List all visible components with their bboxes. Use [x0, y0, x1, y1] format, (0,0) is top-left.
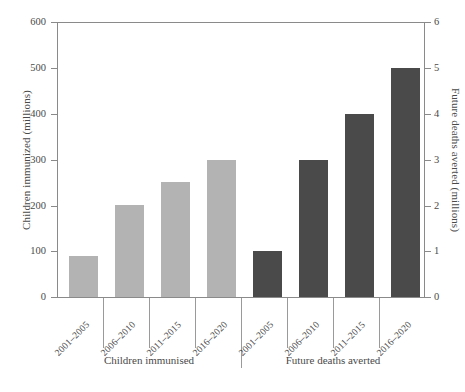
category-separator-1 — [103, 298, 104, 348]
y-right-label-6: 6 — [434, 17, 439, 28]
y-right-label-2: 2 — [434, 201, 439, 212]
bar-chart-figure: Children immunized (millions) Future dea… — [0, 0, 465, 392]
bar-deaths-2016-2020 — [391, 68, 420, 297]
bar-children-2001-2005 — [69, 256, 98, 297]
y-right-label-0: 0 — [434, 292, 439, 303]
x-label-deaths-2011-2015: 2011–2015 — [329, 320, 367, 358]
category-separator-6 — [379, 298, 380, 348]
category-separator-5 — [333, 298, 334, 348]
y-right-label-5: 5 — [434, 63, 439, 74]
y-left-label-400: 400 — [30, 109, 46, 120]
group-caption-future-deaths-averted: Future deaths averted — [241, 354, 425, 366]
x-label-children-2011-2015: 2011–2015 — [145, 320, 183, 358]
x-label-deaths-2016-2020: 2016–2020 — [375, 319, 414, 358]
x-label-deaths-2006-2010: 2006–2010 — [283, 319, 322, 358]
y-right-tick-2 — [425, 206, 431, 207]
y-left-label-100: 100 — [30, 246, 46, 257]
y-right-tick-3 — [425, 160, 431, 161]
y-left-label-300: 300 — [30, 155, 46, 166]
bar-children-2016-2020 — [207, 160, 236, 298]
y-right-tick-1 — [425, 251, 431, 252]
category-separator-3 — [195, 298, 196, 348]
bar-deaths-2011-2015 — [345, 114, 374, 297]
category-separator-4 — [287, 298, 288, 348]
y-right-label-4: 4 — [434, 109, 439, 120]
bar-children-2006-2010 — [115, 205, 144, 297]
x-label-children-2006-2010: 2006–2010 — [99, 319, 138, 358]
y-left-label-200: 200 — [30, 201, 46, 212]
x-label-deaths-2001-2005: 2001–2005 — [237, 319, 276, 358]
y-left-label-0: 0 — [41, 292, 46, 303]
y-right-label-1: 1 — [434, 246, 439, 257]
y-right-tick-6 — [425, 22, 431, 23]
y-left-label-500: 500 — [30, 63, 46, 74]
plot-area — [57, 22, 425, 297]
group-caption-children-immunised: Children immunised — [57, 354, 241, 366]
y-left-label-600: 600 — [30, 17, 46, 28]
y-axis-right-title: Future deaths averted (millions) — [450, 50, 462, 270]
x-label-children-2001-2005: 2001–2005 — [53, 319, 92, 358]
bar-deaths-2001-2005 — [253, 251, 282, 297]
category-separator-2 — [149, 298, 150, 348]
y-right-label-3: 3 — [434, 155, 439, 166]
y-right-tick-4 — [425, 114, 431, 115]
x-label-children-2016-2020: 2016–2020 — [191, 319, 230, 358]
y-right-tick-5 — [425, 68, 431, 69]
bar-deaths-2006-2010 — [299, 160, 328, 298]
bar-children-2011-2015 — [161, 182, 190, 297]
y-right-tick-0 — [425, 297, 431, 298]
